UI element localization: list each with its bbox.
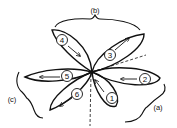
lobe-4: 4	[52, 30, 92, 72]
lobe-diagram: 1 2 3 4 5 6 (b) (c)	[0, 0, 177, 128]
lobe-5: 5	[25, 69, 92, 81]
lobe-1-label: 1	[110, 94, 115, 103]
bracket-b-label: (b)	[90, 6, 100, 15]
bracket-a-label: (a)	[153, 103, 163, 112]
lobe-4-label: 4	[60, 36, 65, 45]
lobe-6-label: 6	[75, 90, 80, 99]
lobe-3-label: 3	[108, 51, 113, 60]
bracket-b: (b)	[55, 6, 140, 30]
bracket-a: (a)	[125, 84, 165, 122]
dashed-line-bottom	[90, 74, 91, 126]
bracket-c: (c)	[8, 72, 43, 118]
lobe-1: 1	[92, 72, 118, 107]
lobe-3: 3	[92, 34, 144, 72]
bracket-c-label: (c)	[8, 95, 17, 104]
lobe-2-label: 2	[143, 75, 148, 84]
lobe-5-label: 5	[65, 72, 70, 81]
